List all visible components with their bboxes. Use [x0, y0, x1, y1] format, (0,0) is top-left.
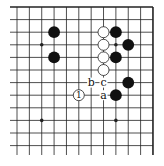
white-stone-icon	[98, 39, 109, 50]
black-stone	[122, 39, 134, 51]
black-stone-icon	[48, 52, 60, 64]
point-label-text: a	[100, 89, 107, 102]
black-stone-icon	[110, 26, 122, 38]
white-stone	[98, 65, 109, 76]
point-label-text: b	[88, 76, 95, 89]
black-stone-icon	[110, 89, 122, 101]
white-stone-icon	[98, 27, 109, 38]
point-label-text: c	[100, 76, 106, 89]
black-stone	[48, 26, 60, 38]
move-number-label: 1	[76, 90, 82, 100]
point-label-a: a	[100, 89, 108, 102]
black-stone-icon	[48, 26, 60, 38]
star-point-icon	[40, 43, 44, 47]
star-point-icon	[114, 119, 118, 123]
black-stone	[122, 77, 134, 89]
black-stone-icon	[122, 39, 134, 51]
white-stone: 1	[73, 90, 84, 101]
point-label-b: b	[87, 76, 95, 89]
white-stone-icon	[98, 52, 109, 63]
black-stone	[48, 52, 60, 64]
white-stone	[98, 27, 109, 38]
black-stone-icon	[110, 52, 122, 64]
white-stone	[98, 39, 109, 50]
point-label-c: c	[100, 76, 108, 89]
go-board-diagram: 1 bca	[0, 0, 164, 166]
black-stone	[110, 26, 122, 38]
black-stone	[110, 52, 122, 64]
white-stone-icon	[98, 65, 109, 76]
black-stone-icon	[122, 77, 134, 89]
black-stone	[110, 89, 122, 101]
star-point-icon	[114, 43, 118, 47]
star-point-icon	[40, 119, 44, 123]
white-stone	[98, 52, 109, 63]
move-labels: bca	[87, 76, 107, 102]
